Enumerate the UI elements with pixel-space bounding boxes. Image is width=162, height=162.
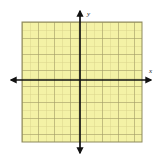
coordinate-grid-figure: y x <box>0 0 162 162</box>
grid-area <box>22 22 142 142</box>
graph-canvas: y x <box>0 0 162 162</box>
y-axis-label: y <box>86 10 91 18</box>
grid-major-lines <box>22 22 142 142</box>
x-axis-label: x <box>148 67 153 75</box>
